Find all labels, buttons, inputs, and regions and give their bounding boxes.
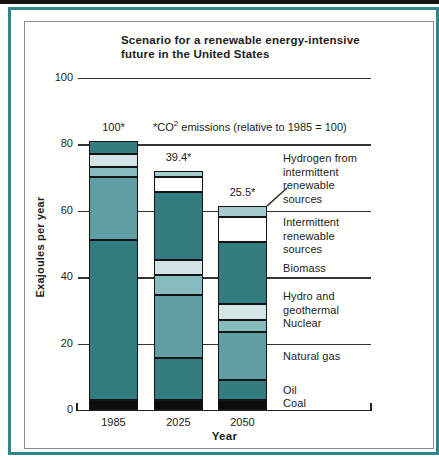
bar-segment-hydrogen-from-intermittent-renewable-sources-2025: [154, 171, 203, 178]
co2-relative-label-2050: 25.5*: [208, 186, 277, 198]
bar-segment-hydrogen-from-intermittent-renewable-sources-2050: [218, 206, 267, 218]
category-label-hydro-geothermal: Hydro and geothermal: [283, 290, 339, 317]
bar-segment-biomass-2025: [154, 192, 203, 260]
y-tick-label-0: 0: [43, 403, 73, 415]
bar-segment-biomass-1985: [89, 141, 138, 154]
y-tick-label-40: 40: [43, 270, 73, 282]
category-label-biomass: Biomass: [283, 262, 326, 276]
category-label-natural-gas: Natural gas: [283, 350, 340, 364]
bar-segment-hydro-and-geothermal-2025: [154, 260, 203, 275]
x-tick-label-2025: 2025: [144, 416, 213, 428]
y-tick-label-80: 80: [43, 137, 73, 149]
bar-segment-coal-1985: [89, 400, 138, 410]
category-label-intermittent: Intermittent renewable sources: [283, 216, 339, 257]
category-label-nuclear: Nuclear: [283, 317, 322, 331]
y-tick-label-100: 100: [43, 71, 73, 83]
x-axis-right-tick: [370, 403, 372, 411]
category-label-oil: Oil: [283, 384, 297, 398]
category-label-hydrogen: Hydrogen from intermittent renewable sou…: [283, 152, 357, 206]
bar-segment-coal-2025: [154, 400, 203, 410]
y-tick-label-20: 20: [43, 337, 73, 349]
bar-segment-hydro-and-geothermal-2050: [218, 304, 267, 321]
y-tick-label-60: 60: [43, 204, 73, 216]
bar-segment-nuclear-2025: [154, 275, 203, 295]
chart-box: Scenario for a renewable energy-intensiv…: [24, 21, 434, 449]
bar-segment-nuclear-2050: [218, 320, 267, 332]
bar-segment-hydro-and-geothermal-1985: [89, 154, 138, 167]
x-axis-label: Year: [164, 430, 285, 442]
page-top-edge-strip: [0, 0, 439, 4]
bar-segment-natural-gas-1985: [89, 177, 138, 240]
bar-segment-nuclear-1985: [89, 167, 138, 177]
bar-segment-coal-2050: [218, 400, 267, 410]
page: { "page": { "top_strip_color": "#151310"…: [0, 0, 439, 460]
x-axis-left-tick: [76, 403, 78, 411]
x-tick-label-2050: 2050: [208, 416, 277, 428]
plot-area: 0204060801001985100*202539.4*205025.5*: [25, 22, 433, 448]
bar-segment-oil-2050: [218, 380, 267, 400]
bar-segment-oil-2025: [154, 358, 203, 400]
co2-relative-label-2025: 39.4*: [144, 151, 213, 163]
category-label-coal: Coal: [283, 397, 306, 411]
bar-segment-natural-gas-2025: [154, 295, 203, 358]
bar-segment-natural-gas-2050: [218, 332, 267, 380]
gridline-100: [78, 78, 371, 80]
bar-segment-biomass-2050: [218, 242, 267, 303]
bar-segment-intermittent-renewable-sources-2025: [154, 177, 203, 192]
co2-relative-label-1985: 100*: [79, 121, 148, 133]
bar-segment-intermittent-renewable-sources-2050: [218, 217, 267, 242]
bar-segment-oil-1985: [89, 240, 138, 400]
x-tick-label-1985: 1985: [79, 416, 148, 428]
